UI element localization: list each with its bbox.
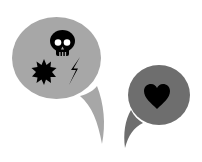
illustration-svg — [0, 0, 202, 162]
angry-speech-bubble — [12, 17, 104, 144]
angry-bubble-tail — [80, 86, 104, 144]
angry-bubble-body — [12, 17, 101, 99]
love-speech-bubble — [124, 65, 190, 148]
speech-bubbles-illustration — [0, 0, 202, 162]
